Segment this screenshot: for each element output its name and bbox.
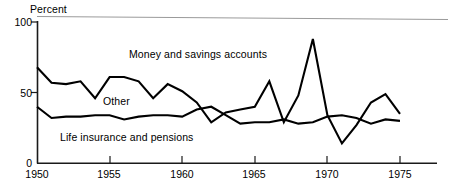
- x-tick-label-1975: 1975: [380, 168, 420, 180]
- x-tick-label-1970: 1970: [307, 168, 347, 180]
- series-annotation-other: Other: [103, 95, 130, 107]
- y-tick-label-100: 100: [4, 16, 32, 28]
- series-annotation-life-insurance-and-pensions: Life insurance and pensions: [60, 131, 193, 143]
- x-tick-label-1965: 1965: [234, 168, 274, 180]
- y-tick-label-50: 50: [4, 87, 32, 99]
- top-rule: [37, 17, 448, 20]
- x-tick-label-1960: 1960: [162, 168, 202, 180]
- series-line-life-insurance-and-pensions: [37, 107, 400, 124]
- x-tick-label-1955: 1955: [89, 168, 129, 180]
- y-axis-unit-label: Percent: [30, 3, 67, 15]
- percent-line-chart: Percent 100 50 0 1950 1955 1960 1965 197…: [0, 0, 453, 196]
- x-tick-marks: [110, 156, 400, 163]
- series-annotation-money-and-savings-accounts: Money and savings accounts: [129, 48, 267, 60]
- x-tick-label-1950: 1950: [17, 168, 57, 180]
- chart-plot-area: [0, 0, 453, 196]
